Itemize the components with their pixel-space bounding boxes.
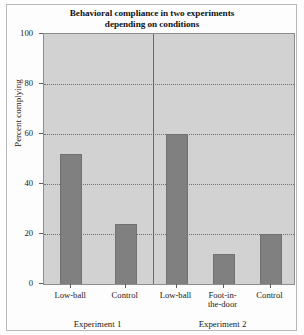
chart-figure: Behavioral compliance in two experiments… bbox=[0, 0, 304, 335]
y-tick-mark-60 bbox=[39, 133, 43, 134]
x-tick-mark bbox=[270, 284, 271, 288]
x-tick-label-line-2: the-door bbox=[193, 300, 253, 309]
y-tick-mark-40 bbox=[39, 183, 43, 184]
bar bbox=[115, 224, 137, 284]
x-tick-label: Low-ball bbox=[40, 291, 100, 300]
x-tick-mark bbox=[125, 284, 126, 288]
gridline-80 bbox=[44, 84, 294, 85]
bar bbox=[166, 134, 188, 284]
y-tick-mark-100 bbox=[39, 33, 43, 34]
y-axis-label: Percent complying bbox=[13, 53, 23, 173]
chart-title: Behavioral compliance in two experiments… bbox=[10, 8, 294, 30]
group-label: Experiment 2 bbox=[173, 319, 273, 329]
y-tick-label-100: 100 bbox=[7, 29, 33, 38]
group-label: Experiment 1 bbox=[48, 319, 148, 329]
y-tick-label-40: 40 bbox=[7, 179, 33, 188]
y-tick-mark-20 bbox=[39, 233, 43, 234]
x-tick-mark bbox=[223, 284, 224, 288]
x-tick-label-line-1: Control bbox=[240, 291, 300, 300]
bar bbox=[60, 154, 82, 284]
y-tick-mark-80 bbox=[39, 83, 43, 84]
y-tick-label-0: 0 bbox=[7, 279, 33, 288]
x-tick-label-line-1: Low-ball bbox=[40, 291, 100, 300]
x-tick-mark bbox=[70, 284, 71, 288]
y-tick-label-80: 80 bbox=[7, 79, 33, 88]
chart-title-line-2: depending on conditions bbox=[10, 19, 294, 30]
x-tick-label: Control bbox=[240, 291, 300, 300]
bar bbox=[213, 254, 235, 284]
x-tick-mark bbox=[176, 284, 177, 288]
y-tick-mark-0 bbox=[39, 283, 43, 284]
bar bbox=[260, 234, 282, 284]
y-tick-label-20: 20 bbox=[7, 229, 33, 238]
group-divider bbox=[153, 34, 154, 284]
y-tick-label-60: 60 bbox=[7, 129, 33, 138]
plot-area bbox=[43, 33, 295, 285]
chart-title-line-1: Behavioral compliance in two experiments bbox=[10, 8, 294, 19]
